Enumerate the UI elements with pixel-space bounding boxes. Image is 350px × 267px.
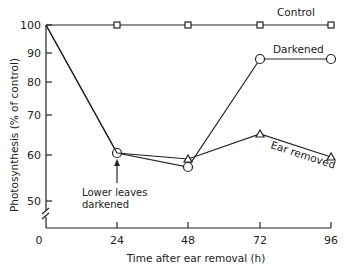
y-tick-90: 90 bbox=[27, 47, 41, 60]
y-axis bbox=[42, 25, 52, 228]
x-axis bbox=[46, 222, 331, 228]
series-control bbox=[46, 22, 334, 28]
x-tick-24: 24 bbox=[110, 234, 124, 247]
label-control: Control bbox=[277, 6, 315, 18]
x-tick-96: 96 bbox=[324, 234, 338, 247]
annotation-line2: darkened bbox=[82, 199, 129, 210]
y-tick-50: 50 bbox=[27, 195, 41, 208]
x-axis-title: Time after ear removal (h) bbox=[126, 252, 266, 264]
annotation-line1: Lower leaves bbox=[82, 187, 147, 198]
x-tick-48: 48 bbox=[181, 234, 195, 247]
x-tick-0: 0 bbox=[36, 234, 43, 247]
y-tick-80: 80 bbox=[27, 76, 41, 89]
annotation-arrow bbox=[114, 159, 120, 183]
photosynthesis-chart: 100 90 80 70 60 50 0 24 48 72 96 Time af… bbox=[0, 0, 350, 267]
y-tick-100: 100 bbox=[20, 19, 41, 32]
y-tick-60: 60 bbox=[27, 149, 41, 162]
label-ear-removed: Ear removed bbox=[269, 138, 337, 170]
x-tick-72: 72 bbox=[253, 234, 267, 247]
y-tick-70: 70 bbox=[27, 109, 41, 122]
label-darkened: Darkened bbox=[273, 43, 324, 55]
y-axis-title: Photosynthesis (% of control) bbox=[8, 58, 20, 212]
